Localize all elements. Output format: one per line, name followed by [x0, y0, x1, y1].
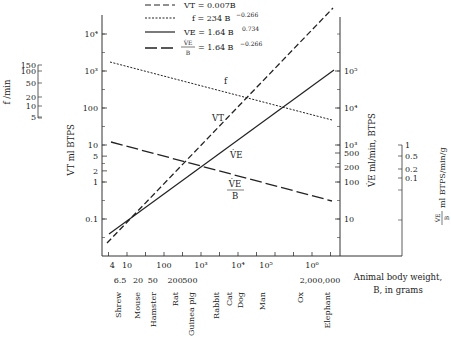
- curve-label-f: f: [224, 76, 228, 86]
- veb-tick-label: 0.1: [405, 174, 418, 183]
- f-tick-label: 100: [21, 67, 36, 76]
- x-axis-title: Animal body weight,: [353, 272, 442, 282]
- svg-text:V̇E: V̇E: [434, 214, 441, 224]
- veb-tick-label: 0.2: [405, 165, 418, 174]
- x-axis-title-2: B, in grams: [373, 285, 423, 295]
- f-tick-label: 10: [26, 102, 36, 111]
- animal-label: Hamster: [149, 292, 158, 327]
- x-weight-label: 20: [133, 276, 143, 285]
- axis-labels: 41010010³10⁴10⁵10⁶6.520502005002,000,000…: [2, 30, 450, 336]
- svg-text:V̇E: V̇E: [228, 178, 241, 189]
- ve-tick-label: 10⁴: [344, 104, 357, 113]
- f-axis-title: f /min: [2, 79, 12, 104]
- vt-tick-label: 1: [93, 178, 98, 187]
- vt-tick-label: 0.1: [85, 215, 98, 224]
- animal-label: Rabbit: [212, 291, 221, 319]
- svg-text:−0.266: −0.266: [240, 40, 262, 47]
- ve-line: [109, 70, 334, 234]
- vt-tick-label: 5: [93, 152, 98, 161]
- curve-label-vt: VT: [211, 113, 224, 123]
- x-tick-label: 10⁶: [305, 261, 318, 270]
- ve-tick-label: 10⁵: [344, 67, 357, 76]
- animal-label: Dog: [236, 292, 245, 308]
- x-tick-label: 100: [156, 261, 171, 270]
- x-tick-label: 4: [110, 261, 115, 270]
- x-tick-label: 10: [122, 261, 132, 270]
- f-line: [110, 62, 332, 120]
- svg-text:B: B: [443, 215, 450, 220]
- f-tick-label: 50: [26, 79, 36, 88]
- ve-tick-label: 10: [344, 215, 354, 224]
- svg-text:−0.266: −0.266: [236, 11, 258, 18]
- vt-tick-label: 100: [83, 104, 98, 113]
- x-tick-label: 10⁴: [231, 261, 244, 270]
- svg-text:0.734: 0.734: [242, 25, 259, 32]
- x-weight-label: 500: [182, 276, 197, 285]
- vt-tick-label: 2: [93, 167, 98, 176]
- f-tick-label: 5: [31, 113, 36, 122]
- x-weight-label: 50: [148, 276, 158, 285]
- svg-text:B: B: [186, 49, 191, 56]
- legend-veb: = 1.64 B: [198, 43, 234, 52]
- veb-axis-title: V̇EBml BTPS/min/g: [434, 147, 450, 225]
- svg-text:B: B: [232, 191, 238, 201]
- ve-axis-title: V̇E ml/min, BTPS: [366, 113, 377, 188]
- legend-vt: VT = 0.007B: [183, 1, 236, 10]
- veb-tick-label: 1: [405, 141, 410, 150]
- legend-veb-num: V̇E: [183, 39, 193, 46]
- legend: VT = 0.007Bf = 234 B−0.266VE = 1.64 B0.7…: [145, 1, 262, 56]
- vt-tick-label: 10: [88, 141, 98, 150]
- curve-label-ve: V̇E: [229, 149, 242, 160]
- allometry-chart: VT = 0.007Bf = 234 B−0.266VE = 1.64 B0.7…: [0, 0, 451, 346]
- animal-label: Rat: [171, 291, 180, 306]
- x-weight-label: 6.5: [114, 276, 127, 285]
- legend-f: f = 234 B: [192, 14, 231, 23]
- veb-line: [111, 142, 332, 201]
- animal-label: Ox: [296, 292, 305, 304]
- ve-tick-label: 100: [344, 178, 359, 187]
- animal-label: Man: [258, 292, 267, 310]
- f-tick-label: 20: [26, 93, 36, 102]
- animal-label: Guinea pig: [187, 292, 196, 336]
- animal-label: Mouse: [133, 292, 142, 319]
- x-tick-label: 10⁵: [259, 261, 272, 270]
- x-weight-label: 200: [167, 276, 182, 285]
- vt-tick-label: 10³: [85, 67, 98, 76]
- curve-label-veb: V̇EB: [227, 178, 244, 201]
- legend-ve: VE = 1.64 B: [183, 28, 234, 37]
- x-weight-label: 2,000,000: [300, 276, 341, 285]
- svg-text:ml BTPS/min/g: ml BTPS/min/g: [438, 147, 447, 208]
- ve-tick-label: 200: [344, 163, 359, 172]
- veb-tick-label: 0.5: [405, 152, 418, 161]
- ve-tick-label: 500: [344, 149, 359, 158]
- animal-label: Shrew: [114, 292, 123, 318]
- x-tick-label: 10³: [194, 261, 207, 270]
- vt-tick-label: 10⁴: [85, 30, 98, 39]
- animal-label: Elephant: [323, 291, 332, 328]
- vt-axis-title: VT ml BTPS: [66, 124, 76, 177]
- animal-label: Cat: [225, 291, 234, 306]
